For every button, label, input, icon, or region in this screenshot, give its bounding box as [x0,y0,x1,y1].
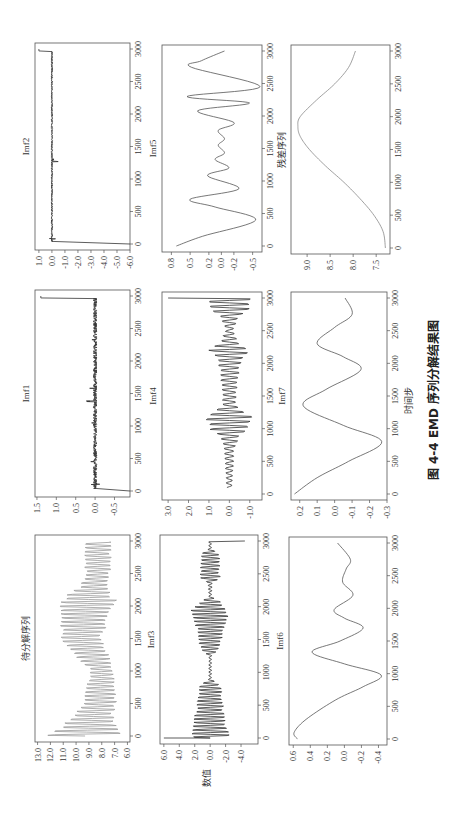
x-tick-label: 3000 [394,43,403,59]
x-tick-label: 2000 [266,108,275,124]
x-tick-label: 500 [391,700,400,712]
y-tick-label: 7.5 [372,260,381,270]
y-tick-label: -0.5 [110,503,119,516]
x-axis-label: 时间步 [403,387,414,414]
y-tick-label: 0.0 [217,258,226,268]
y-tick-label: -6.0 [126,256,135,269]
y-tick-label: -5.0 [113,256,122,269]
panel-5: 0500100015002000250030000.80.50.20.0-0.2… [148,43,275,271]
y-tick-label: -0.2 [230,258,239,271]
x-tick-label: 2500 [266,323,275,339]
x-tick-label: 2000 [391,600,400,616]
x-tick-label: 1000 [134,171,143,187]
x-tick-label: 2000 [266,355,275,371]
x-tick-label: 3000 [134,41,143,57]
x-tick-label: 0 [134,734,143,738]
x-tick-label: 500 [134,206,143,218]
x-tick-label: 2000 [262,599,271,615]
y-tick-label: 0.5 [186,258,195,268]
series-line [176,51,260,246]
y-tick-label: 2.0 [185,506,194,516]
x-tick-label: 0 [134,489,143,493]
y-tick-label: 0.0 [48,256,57,266]
panel-title: Imf7 [277,387,287,405]
x-tick-label: 2500 [134,566,143,582]
y-tick-label: 0.0 [331,506,340,516]
panel-title: 待分解序列 [20,616,31,661]
x-tick-label: 500 [262,699,271,711]
series-line [39,49,130,244]
y-tick-label: 2.0 [191,750,200,760]
y-tick-label: 0.5 [72,503,81,513]
plot-frame [162,45,262,252]
x-tick-label: 2000 [391,355,400,371]
y-tick-label: 7.0 [111,748,120,758]
series-line [164,541,245,738]
y-tick-label: 10.0 [72,748,81,762]
x-tick-label: 1000 [391,666,400,682]
series-line [168,298,251,487]
x-tick-label: 0 [394,246,403,250]
y-tick-label: 0.6 [289,751,298,761]
y-tick-label: 0.0 [206,750,215,760]
x-tick-label: 1500 [391,388,400,404]
y-tick-label: 0.2 [296,506,305,516]
y-tick-label: 11.0 [59,748,68,762]
y-tick-label: 0.1 [313,506,322,516]
x-tick-label: 0 [391,737,400,741]
panel-7: 0500100015002000250030000.20.10.0-0.1-0.… [277,290,400,519]
x-tick-label: 2000 [394,109,403,125]
x-tick-label: 0 [266,492,275,496]
y-tick-label: 4.0 [175,750,184,760]
y-tick-label: 0.2 [205,258,214,268]
y-tick-label: -0.2 [357,751,366,764]
plot-frame [289,537,387,745]
panel-title: Imf3 [146,630,156,648]
y-tick-label: 3.0 [164,506,173,516]
y-tick-label: 1.5 [33,503,42,513]
x-tick-label: 2500 [394,76,403,92]
plot-frame [291,45,390,254]
x-tick-label: 1000 [134,418,143,434]
panel-3: 0500100015002000250030006.04.02.00.0-2.0… [146,533,271,763]
y-tick-label: 8.0 [349,260,358,270]
y-tick-label: -3.0 [87,256,96,269]
y-tick-label: -0.3 [383,506,392,519]
x-tick-label: 1500 [266,388,275,404]
x-tick-label: 500 [391,455,400,467]
y-axis-label: 数值 [201,769,212,787]
y-tick-label: -0.5 [249,258,258,271]
figure-caption: 图 4-4 EMD 序列分解结果图 [426,320,441,480]
series-line [294,298,381,494]
x-tick-label: 2000 [134,598,143,614]
x-tick-label: 3000 [266,290,275,306]
x-tick-label: 3000 [391,535,400,551]
x-tick-label: 1500 [391,633,400,649]
panel-title: Imf6 [275,632,285,650]
y-tick-label: 1.0 [52,503,61,513]
x-tick-label: 1000 [262,664,271,680]
y-tick-label: -2.0 [74,256,83,269]
x-tick-label: 500 [266,208,275,220]
plot-frame [291,292,387,500]
y-tick-label: 13.0 [34,748,43,762]
x-tick-label: 0 [262,736,271,740]
y-tick-label: 12.0 [46,748,55,762]
panel-title: Imf4 [148,387,158,405]
x-tick-label: 1500 [262,632,271,648]
x-tick-label: 500 [266,455,275,467]
x-tick-label: 1500 [134,386,143,402]
x-tick-label: 0 [134,242,143,246]
x-tick-label: 0 [266,244,275,248]
x-tick-label: 3000 [262,533,271,549]
y-tick-label: -0.2 [366,506,375,519]
y-tick-label: 1.0 [35,256,44,266]
x-tick-label: 1000 [134,663,143,679]
series-line [298,51,386,248]
y-tick-label: 9.0 [85,748,94,758]
x-tick-label: 500 [134,453,143,465]
y-tick-label: 8.0 [98,748,107,758]
x-tick-label: 2500 [391,323,400,339]
panel-title: Imf5 [148,139,158,157]
x-tick-label: 2500 [262,566,271,582]
